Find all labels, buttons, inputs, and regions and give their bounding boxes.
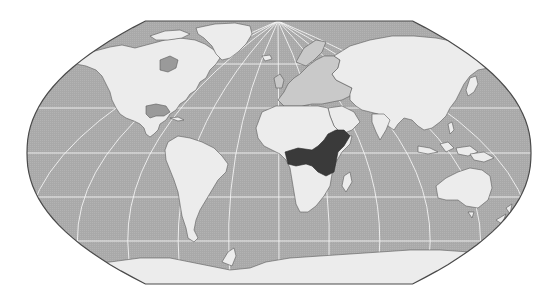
world-map-figure: [0, 0, 543, 292]
map-body: [0, 0, 543, 292]
